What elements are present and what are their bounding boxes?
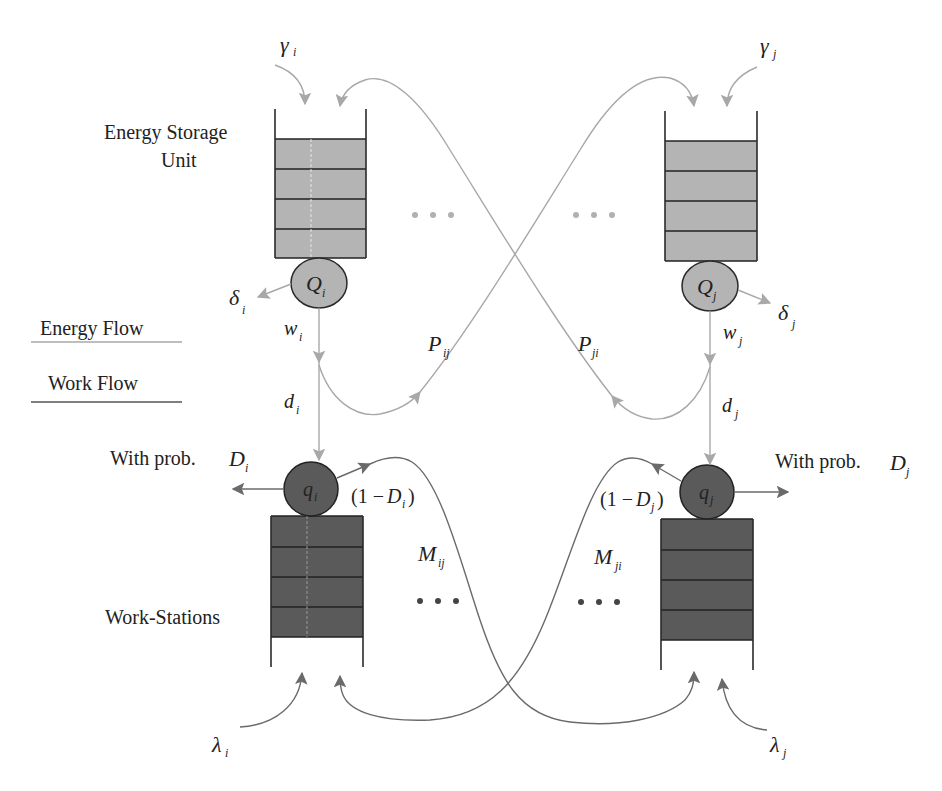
label-P-ij: P ij [427, 331, 450, 360]
energy-storage-unit-i [275, 109, 366, 258]
label-with-prob-D-i: With prob. D i [110, 446, 248, 475]
label-M-ij: M ij [417, 541, 445, 570]
label-w-j: w j [723, 321, 743, 348]
svg-text:): ) [408, 485, 415, 508]
delta-j-leak-arrow [738, 290, 770, 303]
P-ij-transfer-arrow [420, 77, 694, 392]
svg-text:ij: ij [443, 346, 450, 360]
work-station-queue-j [661, 519, 753, 670]
lambda-j-arrival-arrow [722, 679, 767, 730]
label-d-i: d i [284, 390, 299, 417]
svg-text:Q: Q [697, 274, 713, 299]
svg-text:j: j [771, 47, 777, 61]
energy-storage-unit-label-line2: Unit [161, 149, 197, 171]
label-d-j: d j [722, 394, 739, 421]
P-ji-transfer-arrow-head [612, 367, 710, 419]
one-minus-D-j-arrow [652, 464, 681, 481]
energy-ellipsis-right [573, 212, 615, 218]
svg-text:λ: λ [211, 732, 222, 757]
gamma-j-arrival-arrow [727, 67, 757, 106]
energy-server-Q-j: Q j [682, 261, 738, 311]
delta-i-leak-arrow [258, 284, 291, 297]
svg-text:P: P [577, 331, 591, 356]
label-lambda-j: λ j [769, 732, 787, 760]
legend: Energy Flow Work Flow [31, 317, 182, 402]
svg-text:M: M [593, 544, 614, 569]
lambda-i-arrival-arrow [240, 673, 302, 727]
svg-text:M: M [417, 541, 438, 566]
svg-text:ij: ij [438, 556, 445, 570]
label-with-prob-D-j: With prob. D j [775, 450, 910, 479]
energy-ellipsis-left [412, 212, 454, 218]
label-P-ji: P ji [577, 331, 599, 360]
svg-text:P: P [427, 331, 441, 356]
svg-text:i: i [314, 490, 317, 504]
gamma-i-arrival-arrow [275, 65, 305, 104]
svg-text:d: d [284, 390, 295, 412]
label-gamma-j: γ j [760, 33, 777, 61]
svg-text:With prob.: With prob. [110, 447, 196, 470]
energy-storage-unit-j [665, 111, 757, 261]
svg-text:q: q [699, 481, 709, 504]
label-lambda-i: λ i [211, 732, 228, 760]
svg-text:(1 −: (1 − [600, 488, 633, 511]
svg-text:i: i [242, 303, 245, 317]
svg-text:γ: γ [280, 32, 290, 57]
label-delta-i: δ i [229, 285, 245, 317]
label-w-i: w i [284, 317, 302, 344]
svg-text:j: j [733, 407, 739, 421]
svg-text:(1 −: (1 − [351, 485, 384, 508]
svg-text:i: i [402, 497, 405, 511]
energy-storage-unit-label-line1: Energy Storage [104, 121, 228, 144]
svg-text:j: j [781, 746, 787, 760]
svg-text:j: j [737, 334, 743, 348]
svg-text:j: j [790, 317, 796, 331]
svg-text:i: i [299, 330, 302, 344]
svg-text:ji: ji [613, 559, 622, 573]
label-delta-j: δ j [778, 300, 796, 331]
svg-text:D: D [228, 446, 245, 471]
svg-text:D: D [635, 488, 651, 510]
svg-text:δ: δ [229, 285, 240, 310]
label-one-minus-D-i: (1 − D i ) [351, 485, 415, 511]
label-M-ji: M ji [593, 544, 622, 573]
one-minus-D-i-arrow [337, 464, 370, 478]
svg-text:i: i [245, 461, 248, 475]
svg-text:With prob.: With prob. [775, 450, 861, 473]
work-ellipsis-right [578, 599, 620, 605]
work-stations-label: Work-Stations [105, 606, 220, 628]
svg-text:ji: ji [590, 346, 599, 360]
svg-text:w: w [284, 317, 298, 339]
svg-text:q: q [303, 478, 313, 501]
svg-text:γ: γ [760, 33, 770, 58]
legend-work-flow-label: Work Flow [48, 372, 139, 394]
work-station-queue-i [271, 516, 363, 667]
svg-text:i: i [293, 45, 296, 59]
label-one-minus-D-j: (1 − D j ) [600, 488, 664, 514]
svg-text:d: d [722, 394, 733, 416]
work-ellipsis-left [417, 598, 459, 604]
svg-text:): ) [657, 488, 664, 511]
label-gamma-i: γ i [280, 32, 296, 59]
queueing-network-diagram: Energy Flow Work Flow Energy Storage Uni… [0, 0, 942, 791]
svg-text:i: i [322, 286, 325, 300]
work-server-q-i: q i [284, 462, 338, 516]
svg-text:D: D [889, 450, 906, 475]
work-server-q-j: q j [680, 465, 734, 519]
svg-text:Q: Q [306, 271, 322, 296]
legend-energy-flow-label: Energy Flow [40, 317, 144, 340]
svg-text:i: i [296, 403, 299, 417]
energy-server-Q-i: Q i [291, 258, 347, 308]
P-ij-transfer-arrow-head [319, 365, 420, 415]
svg-text:w: w [723, 321, 737, 343]
P-ji-transfer-arrow [340, 79, 612, 396]
svg-text:D: D [386, 485, 402, 507]
svg-text:δ: δ [778, 300, 789, 325]
svg-text:λ: λ [769, 732, 780, 757]
svg-text:i: i [225, 746, 228, 760]
